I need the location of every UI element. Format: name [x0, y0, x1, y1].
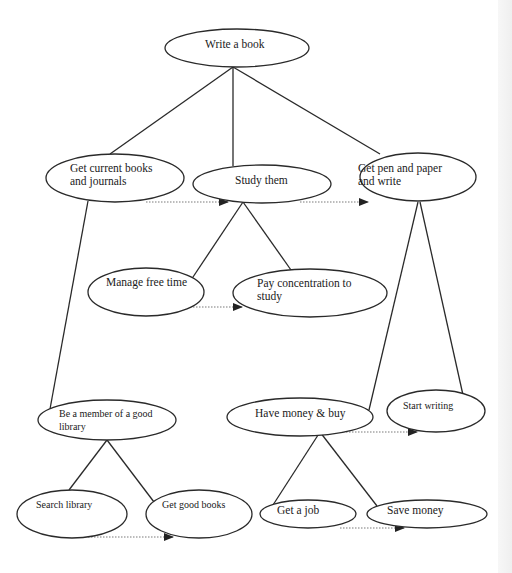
label-study: Study them	[235, 174, 288, 187]
label-search: Search library	[36, 498, 92, 511]
sequence-arrows	[88, 202, 417, 537]
label-job: Get a job	[277, 504, 319, 517]
edge-root-pen	[233, 67, 380, 154]
label-pen-line2: and write	[358, 175, 442, 188]
label-pen-line1: Get pen and paper	[358, 162, 442, 175]
label-study-line1: Study them	[235, 174, 288, 187]
edge-library-goodbooks	[107, 440, 154, 502]
diagram-canvas	[0, 0, 512, 573]
label-concentrate-line1: Pay concentration to	[257, 277, 352, 290]
edge-library-search	[69, 440, 107, 490]
label-books-line2: and journals	[70, 175, 152, 188]
edge-money-save	[320, 432, 377, 506]
label-library: Be a member of a good library	[59, 407, 153, 433]
edge-books-library	[48, 201, 88, 420]
label-save-line1: Save money	[387, 504, 444, 517]
edge-root-books	[110, 67, 233, 154]
label-startwriting-line1: Start writing	[403, 399, 453, 412]
label-goodbooks: Get good books	[162, 498, 225, 511]
label-search-line1: Search library	[36, 498, 92, 511]
label-library-line2: library	[59, 420, 153, 433]
label-job-line1: Get a job	[277, 504, 319, 517]
edge-study-freetime	[191, 202, 243, 280]
label-pen: Get pen and paper and write	[358, 162, 442, 188]
label-startwriting: Start writing	[403, 399, 453, 412]
edge-study-concentrate	[243, 202, 291, 270]
tree-nodes	[17, 29, 487, 538]
label-concentrate-line2: study	[257, 290, 352, 303]
label-freetime-line1: Manage free time	[106, 276, 187, 289]
label-root-line1: Write a book	[205, 38, 265, 51]
label-library-line1: Be a member of a good	[59, 407, 153, 420]
label-books-line1: Get current books	[70, 162, 152, 175]
edge-pen-startwriting	[420, 202, 465, 404]
label-freetime: Manage free time	[106, 276, 187, 289]
label-money: Have money & buy	[255, 407, 345, 420]
label-money-line1: Have money & buy	[255, 407, 345, 420]
label-root: Write a book	[205, 38, 265, 51]
label-goodbooks-line1: Get good books	[162, 498, 225, 511]
label-save: Save money	[387, 504, 444, 517]
edge-money-job	[273, 432, 320, 505]
label-books: Get current books and journals	[70, 162, 152, 188]
label-concentrate: Pay concentration to study	[257, 277, 352, 303]
